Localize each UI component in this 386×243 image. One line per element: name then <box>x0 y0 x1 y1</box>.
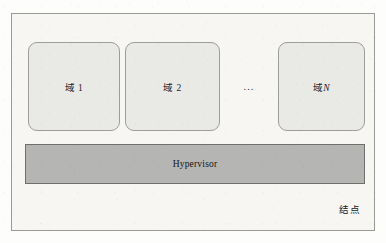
domain-label-1: 域 1 <box>65 80 83 94</box>
domain-box-1: 域 1 <box>28 42 120 131</box>
domain-label-2: 域 2 <box>163 80 181 94</box>
domain-label-n: 域N <box>313 80 330 94</box>
hypervisor-label: Hypervisor <box>173 159 218 169</box>
domain-box-2: 域 2 <box>125 42 220 131</box>
domain-ellipsis: ... <box>220 42 278 131</box>
domain-label-n-index: N <box>323 83 330 93</box>
node-caption: 结点 <box>339 202 360 216</box>
domain-label-n-prefix: 域 <box>313 83 323 93</box>
domain-label-1-prefix: 域 <box>65 83 78 93</box>
domain-box-n: 域N <box>278 42 365 131</box>
domain-label-2-index: 2 <box>176 83 181 93</box>
figure-canvas: 域 1 域 2 ... 域N Hypervisor 结点 <box>0 0 386 243</box>
domain-label-2-prefix: 域 <box>163 83 176 93</box>
domain-label-1-index: 1 <box>78 83 83 93</box>
hypervisor-bar: Hypervisor <box>25 144 365 184</box>
node-container: 域 1 域 2 ... 域N Hypervisor 结点 <box>11 13 375 231</box>
